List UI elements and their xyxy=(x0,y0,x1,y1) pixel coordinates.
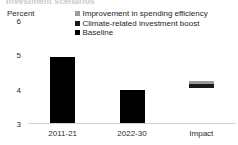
y-tick-5: 5 xyxy=(17,51,21,60)
bar-stack-2022-30 xyxy=(120,90,145,124)
investment-scenarios-bar-chart: Investment scenarios Percent Improvement… xyxy=(0,0,238,145)
bar-group-2011-21: 2011-21 xyxy=(50,21,75,124)
y-tick-6: 6 xyxy=(17,17,21,26)
x-label-2011-21: 2011-21 xyxy=(48,124,77,138)
bar-segment xyxy=(189,84,214,88)
chart-title: Investment scenarios xyxy=(6,0,156,4)
x-label-impact: Impact xyxy=(189,124,213,138)
x-label-2022-30: 2022-30 xyxy=(117,124,146,138)
y-tick-3: 3 xyxy=(17,120,21,129)
legend-item-efficiency: Improvement in spending efficiency xyxy=(75,9,238,19)
bar-group-2022-30: 2022-30 xyxy=(120,21,145,124)
bar-segment xyxy=(120,90,145,124)
plot-area: 6 5 4 3 2011-21 2022-30 Impact xyxy=(28,21,236,124)
bar-segment xyxy=(50,57,75,124)
bar-stack-impact xyxy=(189,81,214,88)
y-tick-4: 4 xyxy=(17,85,21,94)
legend-swatch-efficiency-icon xyxy=(75,11,80,16)
legend-label-efficiency: Improvement in spending efficiency xyxy=(83,9,208,19)
x-axis-baseline xyxy=(28,123,236,124)
bar-stack-2011-21 xyxy=(50,57,75,124)
bar-group-impact: Impact xyxy=(189,21,214,124)
